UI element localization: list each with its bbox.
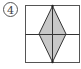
rhombus-diagram (0, 0, 81, 69)
top-vertex-dot (51, 5, 53, 7)
bottom-vertex-dot (51, 61, 53, 63)
